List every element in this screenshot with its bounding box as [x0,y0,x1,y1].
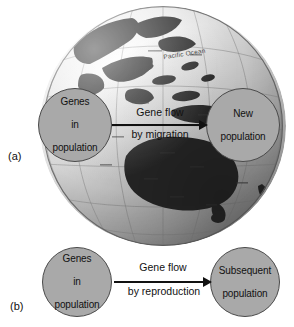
node-b-target-line1: Subsequent [217,265,273,277]
node-genes-in-population-b[interactable]: Genes in population [42,247,112,317]
node-b-source-line3: population [52,299,101,311]
panel-label-b: (b) [10,300,23,312]
arrow-label-gene-flow-b: Gene flow [108,261,218,273]
node-b-source-line2: in [52,276,101,288]
node-a-target-line1: New [218,108,267,120]
arrow-shaft [114,281,204,283]
node-a-target-line2: population [218,131,267,143]
panel-a: Pacific Ocean Genes in population New po… [0,0,294,248]
arrow-label-by-migration: by migration [108,128,212,140]
gene-flow-figure: Pacific Ocean Genes in population New po… [0,0,294,327]
arrow-label-gene-flow-a: Gene flow [108,106,212,118]
node-genes-in-population-a[interactable]: Genes in population [38,88,112,162]
arrow-label-by-reproduction: by reproduction [104,285,224,297]
node-a-source-line2: in [50,119,99,131]
panel-label-a: (a) [8,150,21,162]
node-subsequent-population[interactable]: Subsequent population [210,247,280,317]
node-b-target-line2: population [217,288,273,300]
node-b-source-line1: Genes [52,253,101,265]
node-new-population[interactable]: New population [206,88,280,162]
arrow-shaft [112,124,200,126]
node-a-source-line3: population [50,142,99,154]
node-a-source-line1: Genes [50,96,99,108]
